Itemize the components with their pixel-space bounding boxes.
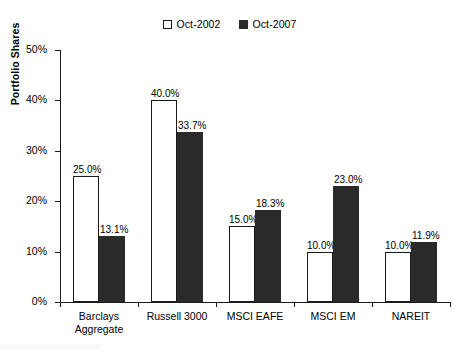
legend-swatch-oct-2007 — [239, 20, 248, 29]
y-axis-tick: 40% — [55, 100, 60, 101]
bar[interactable]: 11.9% — [411, 242, 437, 302]
x-axis-tick — [372, 302, 373, 307]
x-axis-tick — [138, 302, 139, 307]
y-axis-tick-label: 10% — [26, 245, 47, 257]
x-axis-category-label: Barclays Aggregate — [60, 310, 138, 335]
bar[interactable]: 25.0% — [73, 176, 99, 302]
x-axis-tick — [216, 302, 217, 307]
bar[interactable]: 10.0% — [385, 252, 411, 302]
page-edge-artifact — [0, 344, 459, 350]
x-axis-category-label: MSCI EM — [294, 310, 372, 323]
x-axis-category-label: MSCI EAFE — [216, 310, 294, 323]
x-axis-category-label: Russell 3000 — [138, 310, 216, 323]
bar-group: 10.0%11.9% — [385, 50, 437, 302]
y-axis-title: Portfolio Shares — [9, 0, 21, 134]
chart-plot-area: 0%10%20%30%40%50% 25.0%13.1%40.0%33.7%15… — [60, 50, 450, 302]
y-axis-tick-label: 50% — [26, 43, 47, 55]
bar[interactable]: 15.0% — [229, 226, 255, 302]
bar-value-label: 10.0% — [307, 241, 335, 251]
legend-label-oct-2007: Oct-2007 — [253, 18, 297, 30]
bar-value-label: 15.0% — [229, 215, 257, 225]
y-axis-tick: 30% — [55, 151, 60, 152]
y-axis-tick-label: 20% — [26, 194, 47, 206]
bar-value-label: 13.1% — [100, 225, 128, 235]
x-axis-line — [60, 302, 450, 303]
x-axis-tick — [294, 302, 295, 307]
bar-value-label: 40.0% — [151, 89, 179, 99]
bar[interactable]: 10.0% — [307, 252, 333, 302]
y-axis-tick-label: 40% — [26, 93, 47, 105]
bar-value-label: 18.3% — [256, 199, 284, 209]
y-axis-tick: 20% — [55, 201, 60, 202]
y-axis-tick-label: 0% — [32, 295, 47, 307]
bar-group: 25.0%13.1% — [73, 50, 125, 302]
bar-value-label: 25.0% — [73, 165, 101, 175]
y-axis-tick: 10% — [55, 252, 60, 253]
y-axis-line — [60, 50, 61, 303]
chart-legend: Oct-2002 Oct-2007 — [0, 18, 459, 30]
bar-group: 40.0%33.7% — [151, 50, 203, 302]
x-axis-tick — [60, 302, 61, 307]
bar-value-label: 11.9% — [412, 231, 440, 241]
bar[interactable]: 33.7% — [177, 132, 203, 302]
y-axis-tick-label: 30% — [26, 144, 47, 156]
y-axis-tick: 50% — [55, 50, 60, 51]
legend-item-oct-2002: Oct-2002 — [163, 18, 221, 30]
bar-value-label: 23.0% — [334, 175, 362, 185]
legend-swatch-oct-2002 — [163, 20, 172, 29]
x-axis-category-label: NAREIT — [372, 310, 450, 323]
bar-value-label: 10.0% — [385, 241, 413, 251]
legend-label-oct-2002: Oct-2002 — [177, 18, 221, 30]
bar-value-label: 33.7% — [178, 121, 206, 131]
bar[interactable]: 40.0% — [151, 100, 177, 302]
bar-group: 10.0%23.0% — [307, 50, 359, 302]
bar[interactable]: 23.0% — [333, 186, 359, 302]
x-axis-tick — [450, 302, 451, 307]
bar[interactable]: 13.1% — [99, 236, 125, 302]
bar-group: 15.0%18.3% — [229, 50, 281, 302]
bar[interactable]: 18.3% — [255, 210, 281, 302]
legend-item-oct-2007: Oct-2007 — [239, 18, 297, 30]
